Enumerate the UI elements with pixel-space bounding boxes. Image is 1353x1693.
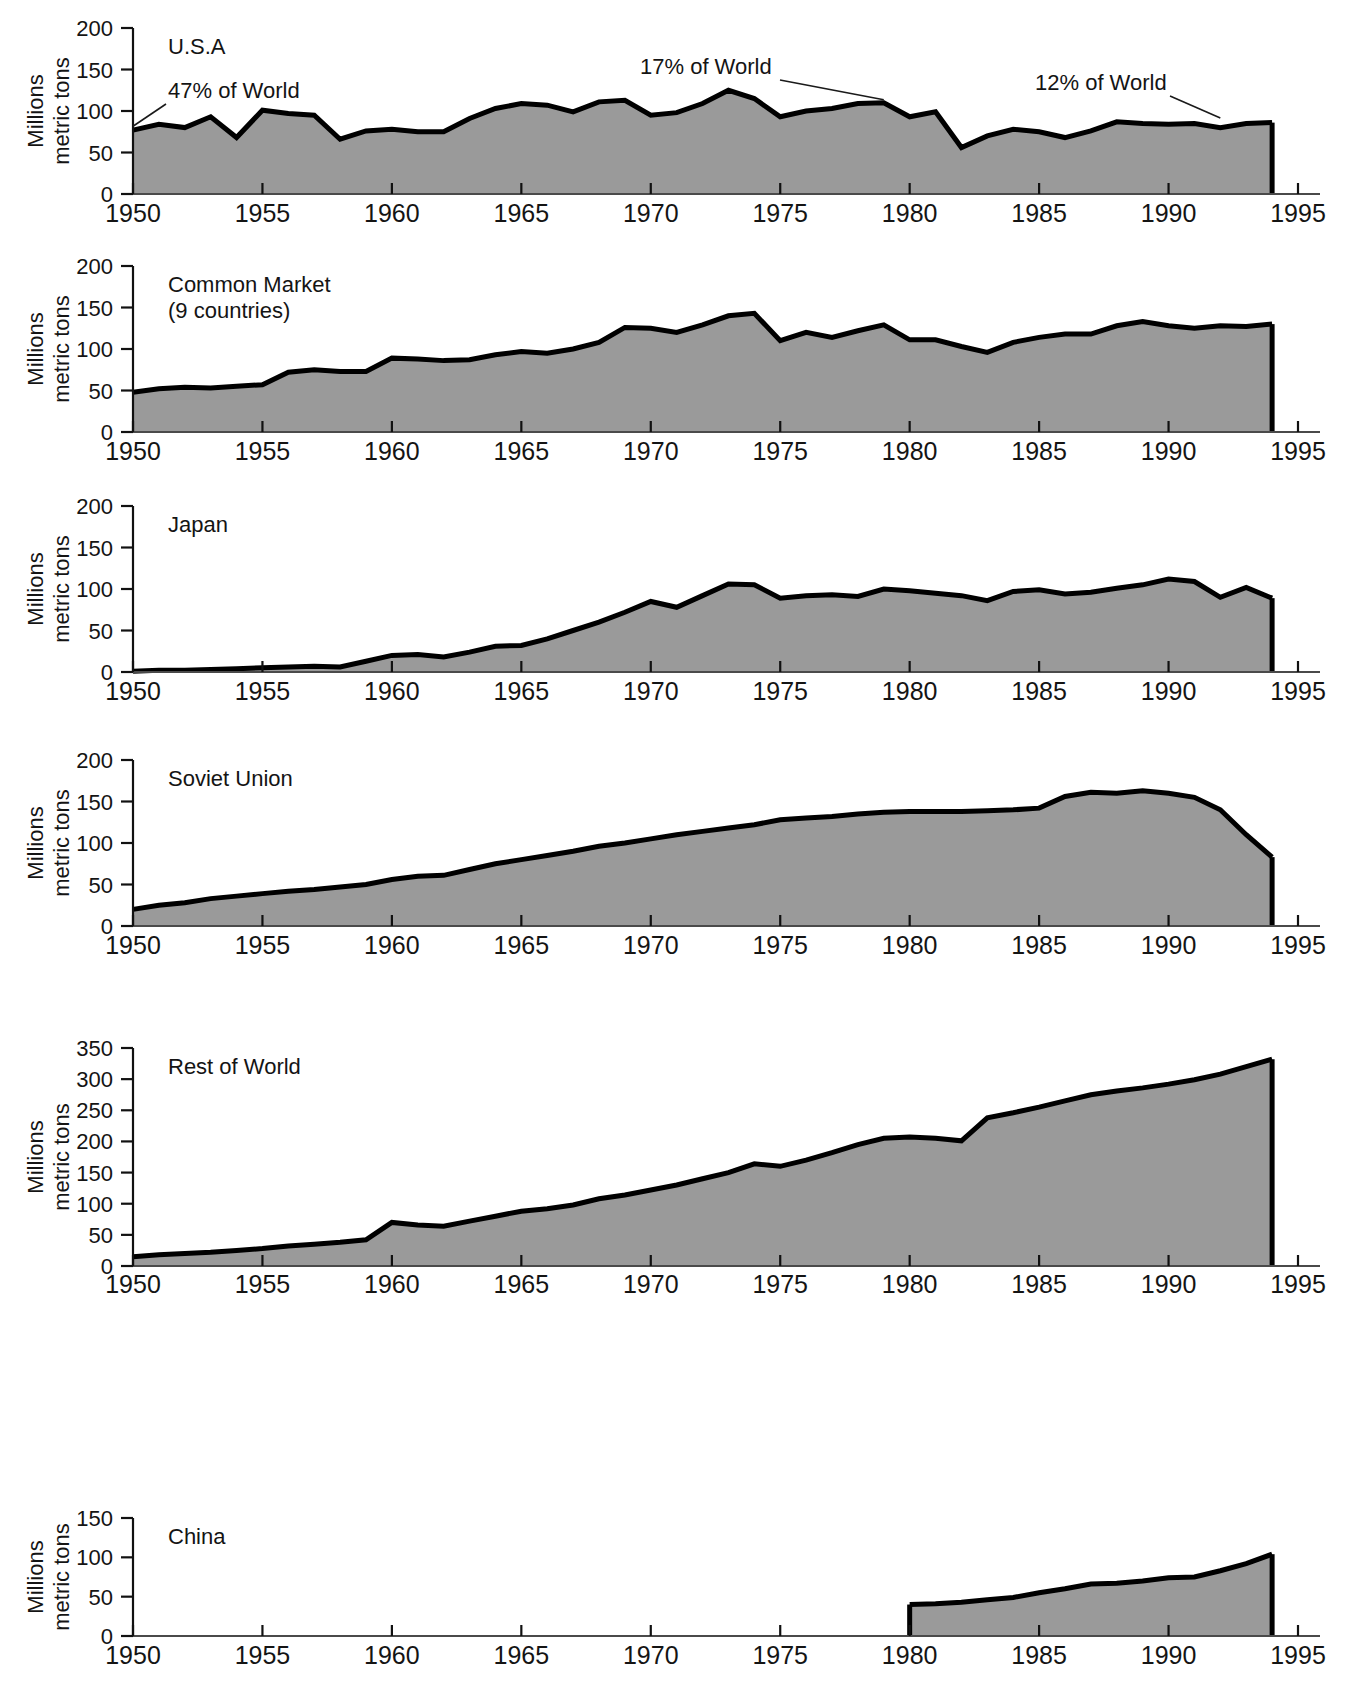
annotation-label: 12% of World <box>1035 70 1167 95</box>
panel-plot-rest-of-world: 0501001502002503003501950195519601965197… <box>0 1012 1353 1333</box>
steel-production-figure: 0501001502001950195519601965197019751980… <box>0 0 1353 1693</box>
y-tick-label: 100 <box>76 1192 113 1217</box>
x-tick-label: 1990 <box>1141 199 1197 227</box>
y-axis-title: Millionsmetric tons <box>23 789 74 897</box>
panel-rest-of-world: 0501001502002503003501950195519601965197… <box>0 1012 1353 1333</box>
y-axis-title-line1: Millions <box>23 806 48 879</box>
panel-plot-usa: 0501001502001950195519601965197019751980… <box>0 0 1353 262</box>
x-tick-label: 1960 <box>364 931 420 959</box>
y-axis-title-line2: metric tons <box>49 295 74 403</box>
x-tick-label: 1995 <box>1270 1641 1326 1669</box>
x-tick-label: 1985 <box>1011 1641 1067 1669</box>
y-tick-label: 100 <box>76 577 113 602</box>
x-tick-label: 1970 <box>623 931 679 959</box>
x-tick-label: 1950 <box>105 199 161 227</box>
x-tick-label: 1975 <box>752 1641 808 1669</box>
y-tick-label: 150 <box>76 1161 113 1186</box>
x-tick-label: 1960 <box>364 1641 420 1669</box>
y-tick-label: 50 <box>89 141 113 166</box>
y-tick-label: 350 <box>76 1036 113 1061</box>
y-axis-title: Millionsmetric tons <box>23 295 74 403</box>
x-tick-label: 1980 <box>882 437 938 465</box>
x-tick-label: 1970 <box>623 437 679 465</box>
y-tick-label: 150 <box>76 536 113 561</box>
x-tick-label: 1970 <box>623 1641 679 1669</box>
y-tick-label: 50 <box>89 1223 113 1248</box>
y-axis-title-line1: Millions <box>23 1120 48 1193</box>
panel-subtitle-common-market: (9 countries) <box>168 298 290 323</box>
y-tick-label: 100 <box>76 831 113 856</box>
x-tick-label: 1985 <box>1011 931 1067 959</box>
x-tick-label: 1980 <box>882 199 938 227</box>
panel-usa: 0501001502001950195519601965197019751980… <box>0 0 1353 262</box>
y-axis-title-line2: metric tons <box>49 1523 74 1631</box>
x-tick-label: 1995 <box>1270 931 1326 959</box>
y-tick-label: 50 <box>89 1585 113 1610</box>
panel-plot-japan: 0501001502001950195519601965197019751980… <box>0 478 1353 740</box>
x-tick-label: 1975 <box>752 199 808 227</box>
x-tick-label: 1965 <box>494 931 550 959</box>
x-tick-label: 1950 <box>105 931 161 959</box>
y-tick-label: 100 <box>76 337 113 362</box>
x-tick-label: 1990 <box>1141 437 1197 465</box>
annotation-leader-line <box>1170 96 1220 118</box>
y-tick-label: 200 <box>76 1129 113 1154</box>
x-tick-label: 1980 <box>882 1270 938 1298</box>
x-tick-label: 1975 <box>752 677 808 705</box>
y-axis-title-line1: Millions <box>23 1540 48 1613</box>
panel-plot-soviet-union: 0501001502001950195519601965197019751980… <box>0 732 1353 994</box>
panel-title-usa: U.S.A <box>168 34 226 59</box>
x-tick-label: 1985 <box>1011 1270 1067 1298</box>
x-tick-label: 1980 <box>882 1641 938 1669</box>
annotation-label: 47% of World <box>168 78 300 103</box>
panel-common-market: 0501001502001950195519601965197019751980… <box>0 238 1353 500</box>
panel-title-soviet-union: Soviet Union <box>168 766 293 791</box>
x-tick-label: 1950 <box>105 1270 161 1298</box>
x-tick-label: 1995 <box>1270 199 1326 227</box>
x-tick-label: 1955 <box>235 931 291 959</box>
x-tick-label: 1985 <box>1011 677 1067 705</box>
x-tick-label: 1950 <box>105 437 161 465</box>
x-tick-label: 1960 <box>364 677 420 705</box>
panel-plot-china: 0501001501950195519601965197019751980198… <box>0 1490 1353 1693</box>
x-tick-label: 1995 <box>1270 437 1326 465</box>
y-axis-title-line2: metric tons <box>49 57 74 165</box>
y-tick-label: 300 <box>76 1067 113 1092</box>
x-tick-label: 1995 <box>1270 677 1326 705</box>
x-tick-label: 1975 <box>752 1270 808 1298</box>
x-tick-label: 1960 <box>364 437 420 465</box>
x-tick-label: 1980 <box>882 931 938 959</box>
y-tick-label: 100 <box>76 1545 113 1570</box>
y-tick-label: 250 <box>76 1098 113 1123</box>
area-fill-rest-of-world <box>133 1059 1272 1266</box>
y-axis-title-line1: Millions <box>23 312 48 385</box>
x-tick-label: 1950 <box>105 1641 161 1669</box>
x-tick-label: 1950 <box>105 677 161 705</box>
annotation-leader-line <box>780 80 884 100</box>
x-tick-label: 1955 <box>235 677 291 705</box>
y-tick-label: 150 <box>76 296 113 321</box>
x-tick-label: 1955 <box>235 1270 291 1298</box>
panel-japan: 0501001502001950195519601965197019751980… <box>0 478 1353 740</box>
x-tick-label: 1980 <box>882 677 938 705</box>
panel-title-common-market: Common Market <box>168 272 331 297</box>
y-axis-title: Millionsmetric tons <box>23 57 74 165</box>
area-fill-china <box>910 1554 1272 1636</box>
x-tick-label: 1960 <box>364 199 420 227</box>
x-tick-label: 1990 <box>1141 677 1197 705</box>
x-tick-label: 1970 <box>623 677 679 705</box>
y-tick-label: 50 <box>89 873 113 898</box>
x-tick-label: 1990 <box>1141 1270 1197 1298</box>
x-tick-label: 1990 <box>1141 931 1197 959</box>
y-tick-label: 50 <box>89 379 113 404</box>
x-tick-label: 1965 <box>494 199 550 227</box>
y-tick-label: 100 <box>76 99 113 124</box>
x-tick-label: 1955 <box>235 1641 291 1669</box>
panel-soviet-union: 0501001502001950195519601965197019751980… <box>0 732 1353 994</box>
annotation-label: 17% of World <box>640 54 772 79</box>
y-axis-title: Millionsmetric tons <box>23 1103 74 1211</box>
y-axis-title: Millionsmetric tons <box>23 1523 74 1631</box>
y-axis-title-line2: metric tons <box>49 1103 74 1211</box>
x-tick-label: 1965 <box>494 437 550 465</box>
panel-china: 0501001501950195519601965197019751980198… <box>0 1490 1353 1693</box>
